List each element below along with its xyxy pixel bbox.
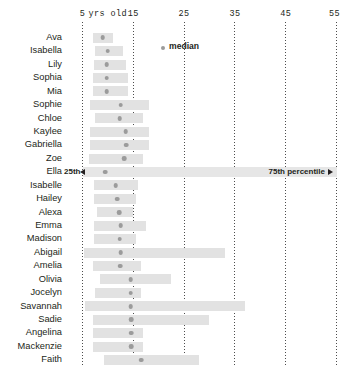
chart-row: Angelina: [0, 326, 336, 339]
percentile-bar: [93, 73, 129, 83]
row-label-wrap: Savannah: [0, 300, 62, 313]
percentile-bar: [94, 234, 136, 244]
row-label-wrap: Emma: [0, 219, 62, 232]
row-label-wrap: Faith: [0, 353, 62, 366]
percentile-bar: [97, 207, 134, 217]
row-label-wrap: Olivia: [0, 273, 62, 286]
row-label-chloe: Chloe: [0, 112, 62, 125]
percentile-bar: [90, 140, 148, 150]
percentile-bar: [93, 261, 141, 271]
median-dot: [115, 197, 120, 202]
chart-row: Faith: [0, 353, 336, 366]
median-dot: [129, 344, 134, 349]
row-label-wrap: Amelia: [0, 259, 62, 272]
chart-row: Hailey: [0, 192, 336, 205]
percentile-bar: [95, 288, 141, 298]
row-label-emma: Emma: [0, 219, 62, 232]
chart-row: Sadie: [0, 313, 336, 326]
row-label-wrap: Sophia: [0, 71, 62, 84]
row-label-wrap: Abigail: [0, 246, 62, 259]
chart-row: Kaylee: [0, 125, 336, 138]
chart-row: Isabella: [0, 44, 336, 57]
row-label-wrap: Lily: [0, 58, 62, 71]
median-dot: [113, 183, 118, 188]
chart-row: Ava: [0, 31, 336, 44]
row-label-sadie: Sadie: [0, 313, 62, 326]
row-label-savannah: Savannah: [0, 300, 62, 313]
row-label-abigail: Abigail: [0, 246, 62, 259]
row-label-mia: Mia: [0, 85, 62, 98]
percentile-bar: [94, 60, 126, 70]
p75-arrow-icon: [328, 169, 333, 175]
chart-row: Mia: [0, 85, 336, 98]
chart-row: Sophie: [0, 98, 336, 111]
row-label-wrap: Sophie: [0, 98, 62, 111]
row-label-isabella: Isabella: [0, 44, 62, 57]
row-label-alexa: Alexa: [0, 206, 62, 219]
median-dot: [122, 156, 127, 161]
chart-row: Ella25th75th percentile: [0, 165, 336, 178]
median-dot: [129, 331, 134, 336]
median-dot: [105, 62, 110, 67]
percentile-bar: [93, 328, 144, 338]
row-label-wrap: Hailey: [0, 192, 62, 205]
median-dot: [117, 210, 122, 215]
median-dot: [123, 129, 128, 134]
row-label-wrap: Mackenzie: [0, 340, 62, 353]
row-label-angelina: Angelina: [0, 326, 62, 339]
percentile-bar: [84, 248, 225, 258]
chart-row: Lily: [0, 58, 336, 71]
row-label-wrap: Angelina: [0, 326, 62, 339]
row-label-wrap: Madison: [0, 232, 62, 245]
percentile-bar: [90, 127, 148, 137]
median-dot: [117, 116, 122, 121]
chart-row: Olivia: [0, 273, 336, 286]
chart-row: Zoe: [0, 152, 336, 165]
median-dot: [118, 250, 123, 255]
row-label-faith: Faith: [0, 353, 62, 366]
row-label-ava: Ava: [0, 31, 62, 44]
p25-arrow-icon: [80, 169, 85, 175]
row-label-wrap: Ava: [0, 31, 62, 44]
percentile-bar: [104, 355, 199, 365]
median-dot: [128, 291, 133, 296]
median-dot: [128, 277, 133, 282]
axis-tick-label-15: 15: [128, 9, 139, 19]
row-label-mackenzie: Mackenzie: [0, 340, 62, 353]
row-label-kaylee: Kaylee: [0, 125, 62, 138]
row-label-zoe: Zoe: [0, 152, 62, 165]
median-dot: [106, 49, 111, 54]
chart-row: Isabelle: [0, 179, 336, 192]
median-dot: [105, 76, 110, 81]
chart-row: Jocelyn: [0, 286, 336, 299]
p75-annotation-label: 75th percentile: [269, 165, 325, 178]
row-label-wrap: Ella: [0, 165, 62, 178]
chart-row: Abigail: [0, 246, 336, 259]
row-label-jocelyn: Jocelyn: [0, 286, 62, 299]
chart-row: Sophia: [0, 71, 336, 84]
row-label-wrap: Isabelle: [0, 179, 62, 192]
axis-tick-label-35: 35: [229, 9, 240, 19]
row-label-wrap: Chloe: [0, 112, 62, 125]
percentile-bar: [93, 342, 144, 352]
axis-tick-label-5: 5: [80, 9, 86, 19]
gridline-55: [336, 22, 337, 366]
axis-tick-label-25: 25: [179, 9, 190, 19]
row-label-wrap: Alexa: [0, 206, 62, 219]
row-label-amelia: Amelia: [0, 259, 62, 272]
chart-row: Mackenzie: [0, 340, 336, 353]
row-label-madison: Madison: [0, 232, 62, 245]
row-label-wrap: Gabriella: [0, 138, 62, 151]
row-label-wrap: Kaylee: [0, 125, 62, 138]
median-dot: [139, 358, 144, 363]
chart-row: Savannah: [0, 300, 336, 313]
row-label-sophie: Sophie: [0, 98, 62, 111]
axis-unit-label: yrs old: [89, 9, 128, 19]
row-label-hailey: Hailey: [0, 192, 62, 205]
row-label-wrap: Mia: [0, 85, 62, 98]
chart-row: Emma: [0, 219, 336, 232]
chart-row: Amelia: [0, 259, 336, 272]
row-label-gabriella: Gabriella: [0, 138, 62, 151]
median-dot: [105, 89, 110, 94]
row-label-wrap: Zoe: [0, 152, 62, 165]
